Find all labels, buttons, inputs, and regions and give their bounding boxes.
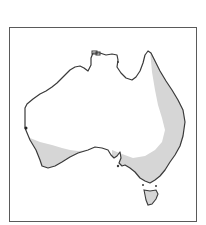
groote-eylandt <box>117 61 119 63</box>
tasmania <box>144 190 158 205</box>
australia-map <box>0 0 206 225</box>
bass-strait-island <box>155 185 157 187</box>
bass-strait-island <box>142 184 144 186</box>
shark-bay-marker <box>25 127 28 130</box>
kangaroo-island <box>117 165 119 167</box>
